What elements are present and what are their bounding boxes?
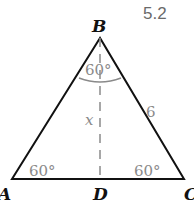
figure-number: 5.2 bbox=[143, 4, 167, 23]
angle-b-label: 60° bbox=[85, 61, 112, 79]
vertex-a-label: A bbox=[0, 184, 11, 202]
vertex-b-label: B bbox=[91, 16, 106, 36]
angle-a-label: 60° bbox=[29, 162, 56, 180]
vertex-c-label: C bbox=[184, 184, 194, 202]
triangle-abc bbox=[12, 38, 184, 179]
side-bc-label: 6 bbox=[146, 103, 156, 121]
triangle-diagram: 5.2 B 60° x 6 60° 60° A D C bbox=[0, 0, 194, 202]
altitude-x-label: x bbox=[85, 111, 94, 129]
angle-c-label: 60° bbox=[134, 162, 161, 180]
vertex-d-label: D bbox=[92, 184, 108, 202]
